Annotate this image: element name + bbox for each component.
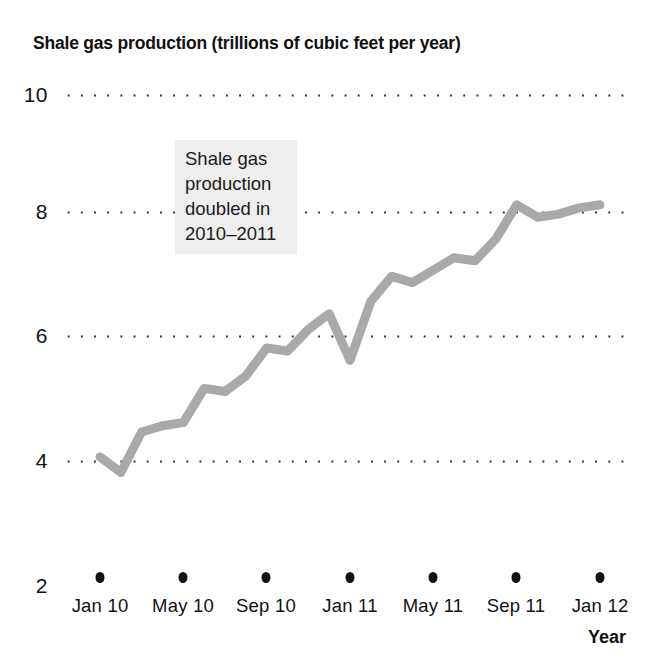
x-tick-dot-sep-10	[262, 572, 271, 583]
annotation-line-3: doubled in	[185, 196, 289, 221]
x-tick-label-may-10: May 10	[152, 595, 214, 617]
x-tick-dot-may-11	[429, 572, 438, 583]
x-axis-title: Year	[588, 627, 626, 648]
x-tick-dot-sep-11	[512, 572, 521, 583]
annotation-callout: Shale gas production doubled in 2010–201…	[175, 140, 297, 254]
annotation-line-1: Shale gas	[185, 146, 289, 171]
x-tick-dot-jan-12	[596, 572, 605, 583]
x-tick-dot-may-10	[179, 572, 188, 583]
x-tick-label-jan-10: Jan 10	[72, 595, 129, 617]
series-layer	[0, 0, 651, 668]
annotation-line-2: production	[185, 171, 289, 196]
x-tick-label-sep-10: Sep 10	[236, 595, 296, 617]
shale-gas-line-chart: Shale gas production (trillions of cubic…	[0, 0, 651, 668]
x-tick-dot-jan-11	[346, 572, 355, 583]
plot-area: 10 8 6 4 2 Jan 10 May 10 Sep 10 Jan 11 M…	[0, 0, 651, 668]
x-tick-label-sep-11: Sep 11	[487, 595, 545, 617]
annotation-line-4: 2010–2011	[185, 221, 289, 246]
x-tick-label-may-11: May 11	[403, 595, 464, 617]
x-tick-label-jan-11: Jan 11	[322, 595, 377, 617]
x-tick-dot-jan-10	[96, 572, 105, 583]
x-tick-label-jan-12: Jan 12	[572, 595, 629, 617]
